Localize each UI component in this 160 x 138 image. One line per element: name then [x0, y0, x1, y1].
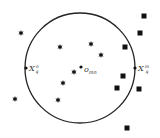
right-label: Xmq	[137, 64, 149, 74]
star-marker	[88, 41, 93, 47]
star-marker	[60, 80, 65, 86]
square-marker	[121, 74, 126, 79]
center-point	[79, 65, 82, 68]
square-marker	[125, 126, 130, 131]
diagram-canvas: omn Xnq Xmq	[0, 0, 160, 138]
star-marker	[12, 96, 17, 102]
center-label: omn	[84, 65, 97, 75]
star-marker	[71, 69, 76, 75]
square-marker	[123, 45, 128, 50]
star-marker	[55, 97, 60, 103]
square-marker	[115, 86, 120, 91]
star-marker	[57, 44, 62, 50]
star-marker	[98, 52, 103, 58]
left-label: Xnq	[28, 64, 39, 74]
square-marker	[137, 87, 142, 92]
square-marker	[142, 14, 147, 19]
star-marker	[18, 30, 23, 36]
left-point	[24, 66, 27, 69]
right-point	[133, 66, 136, 69]
square-marker	[138, 31, 143, 36]
